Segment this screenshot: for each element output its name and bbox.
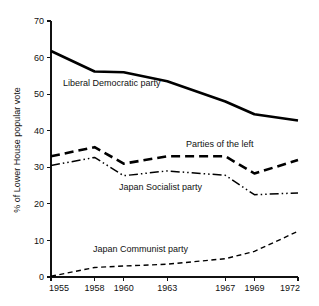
y-tick-label: 40: [34, 126, 44, 136]
series-label: Japan Communist party: [93, 244, 189, 254]
y-axis-tick-labels: 010203040506070: [34, 16, 44, 282]
y-tick-label: 20: [34, 199, 44, 209]
x-tick-label: 1955: [49, 283, 69, 293]
y-tick-label: 70: [34, 16, 44, 26]
line-chart-svg: 010203040506070 195519581960196319671969…: [0, 0, 319, 306]
x-tick-label: 1969: [244, 283, 264, 293]
y-axis-title: % of Lower House popular vote: [12, 87, 22, 213]
y-tick-label: 50: [34, 89, 44, 99]
y-tick-label: 10: [34, 236, 44, 246]
y-tick-label: 60: [34, 53, 44, 63]
x-axis-tick-labels: 1955195819601963196719691972: [49, 283, 300, 293]
x-tick-label: 1963: [157, 283, 177, 293]
x-tick-label: 1972: [280, 283, 300, 293]
series-label: Japan Socialist party: [119, 182, 203, 192]
series-label: Parties of the left: [186, 139, 254, 149]
y-axis-ticks: [47, 21, 51, 277]
series-annotations: Liberal Democratic partyParties of the l…: [63, 78, 254, 254]
y-tick-label: 30: [34, 162, 44, 172]
x-tick-label: 1958: [85, 283, 105, 293]
series-label: Liberal Democratic party: [63, 78, 161, 88]
chart-figure: 010203040506070 195519581960196319671969…: [0, 0, 319, 306]
y-tick-label: 0: [39, 272, 44, 282]
axes: [47, 21, 298, 281]
x-tick-label: 1960: [114, 283, 134, 293]
series-line-parties-of-the-left: [51, 147, 298, 173]
x-tick-label: 1967: [215, 283, 235, 293]
x-axis-ticks: [51, 277, 298, 281]
